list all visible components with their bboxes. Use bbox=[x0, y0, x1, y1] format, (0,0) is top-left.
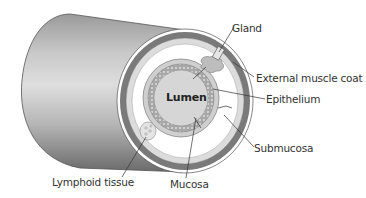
label-mucosa: Mucosa bbox=[170, 178, 209, 190]
label-gland: Gland bbox=[232, 22, 262, 34]
label-lumen: Lumen bbox=[166, 92, 207, 104]
label-lymphoid-tissue: Lymphoid tissue bbox=[52, 176, 134, 188]
label-epithelium: Epithelium bbox=[266, 93, 320, 105]
label-external-muscle-coat: External muscle coat bbox=[256, 72, 363, 84]
gut-cross-section-diagram: Gland External muscle coat Epithelium Su… bbox=[0, 0, 366, 198]
lymphoid-tissue-shape bbox=[140, 122, 156, 140]
label-submucosa: Submucosa bbox=[254, 142, 313, 154]
